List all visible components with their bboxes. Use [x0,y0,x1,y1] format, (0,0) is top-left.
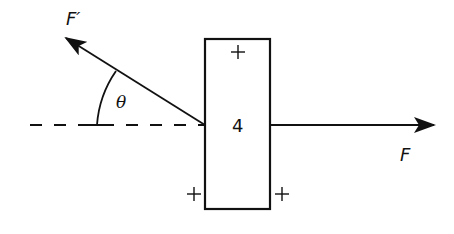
force-label-f: F [400,146,410,164]
plus-mark-bottom-left [187,187,201,201]
angle-label-theta: θ [116,94,126,111]
block-label: 4 [232,117,243,135]
force-label-f-prime: F′ [66,10,80,28]
force-diagram [0,0,454,234]
plus-mark-bottom-right [275,187,289,201]
force-arrow-f-prime [66,38,205,125]
angle-arc [97,71,116,125]
